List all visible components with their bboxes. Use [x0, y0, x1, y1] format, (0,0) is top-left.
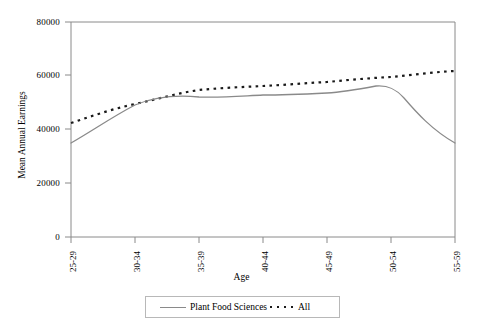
legend: Plant Food Sciences All — [145, 296, 340, 318]
legend-item-all: All — [268, 301, 310, 312]
legend-item-plant-food-sciences: Plant Food Sciences — [160, 301, 267, 312]
y-tick-label-80000: 80000 — [12, 17, 60, 27]
legend-label-all: All — [298, 302, 310, 312]
series-line-plant-food-sciences — [71, 86, 455, 143]
plot-area — [0, 0, 483, 335]
x-tick-label-40-44: 40-44 — [260, 251, 270, 272]
x-tick-label-55-59: 55-59 — [452, 251, 462, 272]
x-tick-label-50-54: 50-54 — [388, 251, 398, 272]
x-axis-title: Age — [0, 272, 483, 282]
x-tick-label-25-29: 25-29 — [68, 251, 78, 272]
y-tick-label-0: 0 — [12, 232, 60, 242]
legend-swatch-solid-line-icon — [160, 303, 186, 311]
legend-swatch-dotted-line-icon — [268, 303, 294, 311]
x-axis-ticks — [71, 237, 455, 243]
legend-label-plant-food-sciences: Plant Food Sciences — [190, 302, 267, 312]
x-tick-label-45-49: 45-49 — [324, 251, 334, 272]
x-tick-label-30-34: 30-34 — [132, 251, 142, 272]
series-line-all — [71, 71, 455, 123]
y-axis-title: Mean Annual Earnings — [17, 75, 27, 195]
earnings-by-age-chart: 80000 60000 40000 20000 0 25-29 30-34 35… — [0, 0, 483, 335]
y-axis-ticks — [65, 22, 71, 237]
x-tick-label-35-39: 35-39 — [196, 251, 206, 272]
axis-frame — [71, 22, 455, 237]
